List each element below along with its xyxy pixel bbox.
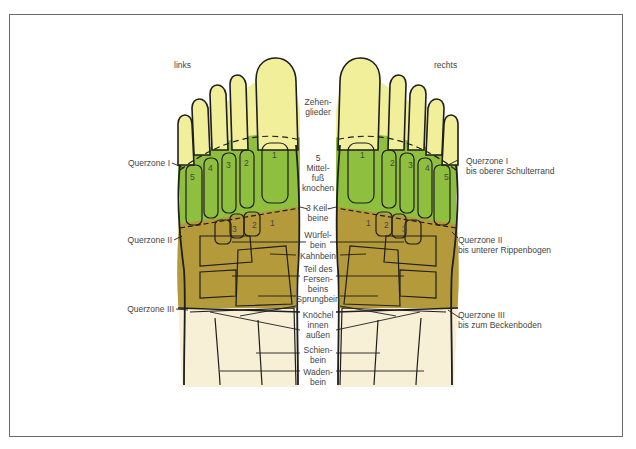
label-talus: Sprungbein: [288, 294, 348, 304]
right-zone-1-label: Querzone I bis oberer Schulterrand: [466, 156, 554, 176]
right-zone-1-title: Querzone I: [466, 156, 554, 166]
label-ankle: Knöchel innen außen: [290, 310, 346, 340]
right-zone-2-label: Querzone II bis unterer Rippenbogen: [458, 235, 551, 255]
right-metatarsal-3: 3: [408, 160, 413, 170]
right-zone-3-subtitle: bis zum Beckenboden: [458, 320, 542, 330]
left-zone-1-label: Querzone I: [100, 158, 170, 168]
right-cuneiform-1: 1: [366, 218, 371, 228]
left-cuneiform-1: 1: [270, 218, 275, 228]
left-foot: [170, 50, 310, 398]
right-zone-2-subtitle: bis unterer Rippenbogen: [458, 245, 551, 255]
label-calcaneus: Teil des Fersen- beins: [290, 264, 346, 294]
right-metatarsal-4: 4: [425, 163, 430, 173]
right-cuneiform-3: 3: [402, 224, 407, 234]
left-metatarsal-4: 4: [208, 163, 213, 173]
left-foot-label: links: [174, 60, 191, 70]
right-zone-3-label: Querzone III bis zum Beckenboden: [458, 310, 542, 330]
left-metatarsal-2: 2: [244, 158, 249, 168]
right-zone-3-title: Querzone III: [458, 310, 542, 320]
label-cuneiform: 3 Keil- beine: [290, 203, 346, 223]
right-metatarsal-2: 2: [390, 158, 395, 168]
left-metatarsal-5: 5: [190, 172, 195, 182]
left-cuneiform-2: 2: [252, 220, 257, 230]
left-zone-2-label: Querzone II: [100, 235, 172, 245]
right-foot: [326, 50, 466, 398]
right-zone-2-title: Querzone II: [458, 235, 551, 245]
right-metatarsal-1: 1: [360, 150, 365, 160]
left-zone-3-label: Querzone III: [100, 304, 174, 314]
label-metatarsal: 5 Mittel- fuß knochen: [290, 153, 346, 193]
left-metatarsal-1: 1: [272, 150, 277, 160]
right-cuneiform-2: 2: [384, 220, 389, 230]
label-navicular: Kahnbein: [290, 251, 346, 261]
label-fibula: Waden- bein: [290, 367, 346, 387]
left-cuneiform-3: 3: [232, 224, 237, 234]
label-tibia: Schien- bein: [290, 345, 346, 365]
right-zone-1-subtitle: bis oberer Schulterrand: [466, 166, 554, 176]
label-cuboid: Würfel- bein: [290, 230, 346, 250]
right-metatarsal-5: 5: [444, 172, 449, 182]
label-toes: Zehen- glieder: [290, 97, 346, 117]
right-foot-label: rechts: [434, 60, 457, 70]
left-metatarsal-3: 3: [226, 160, 231, 170]
